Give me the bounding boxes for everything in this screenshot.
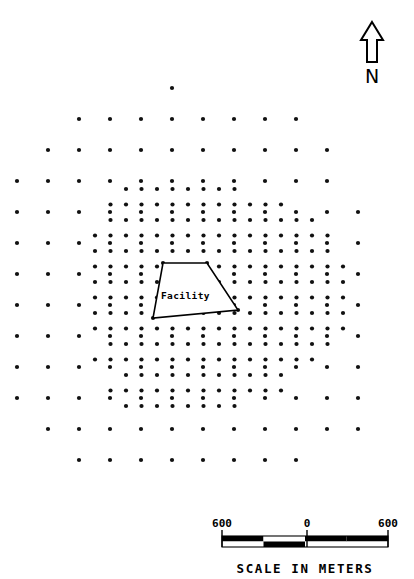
sample-point bbox=[170, 342, 174, 346]
sample-point bbox=[155, 388, 159, 392]
sample-point bbox=[77, 210, 81, 214]
sample-point bbox=[232, 241, 236, 245]
sample-point bbox=[279, 388, 283, 392]
sample-point bbox=[232, 202, 236, 206]
sample-point bbox=[186, 218, 190, 222]
sample-point bbox=[186, 342, 190, 346]
sample-point bbox=[201, 326, 205, 330]
sample-point bbox=[139, 373, 143, 377]
sample-point bbox=[139, 357, 143, 361]
sample-point bbox=[186, 202, 190, 206]
sample-point bbox=[217, 202, 221, 206]
sample-point bbox=[263, 303, 267, 307]
sample-point bbox=[108, 218, 112, 222]
sample-point bbox=[294, 303, 298, 307]
sample-point bbox=[201, 357, 205, 361]
sample-point bbox=[217, 404, 221, 408]
sample-point bbox=[294, 280, 298, 284]
sample-point bbox=[170, 148, 174, 152]
sample-point bbox=[186, 187, 190, 191]
north-arrow-icon: N bbox=[361, 22, 383, 87]
sample-point bbox=[124, 233, 128, 237]
sample-point bbox=[263, 249, 267, 253]
sample-point bbox=[46, 303, 50, 307]
sample-point bbox=[232, 264, 236, 268]
sample-point bbox=[15, 241, 19, 245]
sample-point bbox=[232, 218, 236, 222]
sample-point bbox=[93, 326, 97, 330]
sample-point bbox=[108, 427, 112, 431]
sample-point bbox=[341, 280, 345, 284]
sample-point bbox=[217, 373, 221, 377]
sample-point bbox=[155, 404, 159, 408]
sample-point bbox=[124, 187, 128, 191]
sample-point bbox=[170, 404, 174, 408]
sample-point bbox=[263, 272, 267, 276]
sample-point bbox=[294, 210, 298, 214]
sample-point bbox=[108, 365, 112, 369]
sample-point bbox=[170, 458, 174, 462]
sample-point bbox=[217, 218, 221, 222]
sample-point bbox=[155, 357, 159, 361]
sample-point bbox=[46, 365, 50, 369]
sample-point bbox=[310, 326, 314, 330]
sample-point bbox=[93, 233, 97, 237]
sample-point bbox=[108, 202, 112, 206]
sample-point bbox=[325, 264, 329, 268]
scale-bar-segment bbox=[305, 542, 347, 548]
sample-point bbox=[108, 249, 112, 253]
scale-value-label: 0 bbox=[304, 517, 311, 530]
sample-point bbox=[356, 365, 360, 369]
sample-point bbox=[279, 373, 283, 377]
sample-point bbox=[93, 249, 97, 253]
sample-point bbox=[186, 373, 190, 377]
sample-point bbox=[232, 249, 236, 253]
sample-point bbox=[124, 264, 128, 268]
sample-point bbox=[263, 179, 267, 183]
sample-point bbox=[46, 148, 50, 152]
sample-point bbox=[15, 210, 19, 214]
sample-point bbox=[232, 388, 236, 392]
sample-point bbox=[201, 342, 205, 346]
sample-point bbox=[108, 311, 112, 315]
sample-point bbox=[294, 357, 298, 361]
sample-point bbox=[139, 365, 143, 369]
sample-point bbox=[139, 458, 143, 462]
sample-point bbox=[170, 233, 174, 237]
sample-point bbox=[46, 396, 50, 400]
sample-point bbox=[263, 295, 267, 299]
sample-point bbox=[325, 148, 329, 152]
sample-point bbox=[108, 264, 112, 268]
sample-point bbox=[294, 241, 298, 245]
sample-point bbox=[248, 342, 252, 346]
sample-point bbox=[139, 396, 143, 400]
sample-point bbox=[325, 334, 329, 338]
sample-point bbox=[263, 334, 267, 338]
sample-point bbox=[232, 179, 236, 183]
sample-point bbox=[139, 326, 143, 330]
sample-point bbox=[294, 117, 298, 121]
sample-point bbox=[155, 218, 159, 222]
sample-point bbox=[108, 241, 112, 245]
sample-point bbox=[232, 326, 236, 330]
sample-point bbox=[356, 334, 360, 338]
sample-point bbox=[46, 427, 50, 431]
sample-point bbox=[139, 280, 143, 284]
sample-point bbox=[232, 404, 236, 408]
sample-point bbox=[294, 458, 298, 462]
sample-point bbox=[232, 280, 236, 284]
sample-point bbox=[217, 342, 221, 346]
sample-point bbox=[263, 458, 267, 462]
sample-point bbox=[77, 117, 81, 121]
north-letter: N bbox=[365, 65, 379, 87]
sample-point bbox=[248, 233, 252, 237]
sample-point bbox=[108, 295, 112, 299]
sample-point bbox=[139, 404, 143, 408]
sample-point bbox=[93, 295, 97, 299]
sample-point bbox=[170, 187, 174, 191]
sample-point bbox=[108, 179, 112, 183]
sample-point bbox=[155, 187, 159, 191]
sample-point bbox=[139, 117, 143, 121]
sample-point bbox=[248, 202, 252, 206]
facility-label: Facility bbox=[161, 290, 210, 301]
